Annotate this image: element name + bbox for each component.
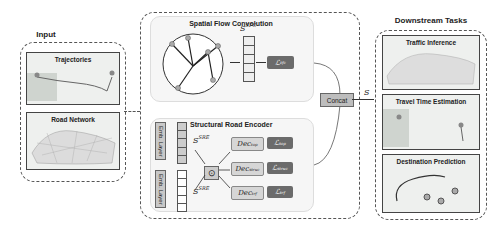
- concat-connectors: [290, 55, 370, 175]
- trajectories-card: Trajectories: [26, 52, 120, 105]
- traffic-inference-label: Traffic Inference: [383, 39, 479, 46]
- spatial-flow-title: Spatial Flow Convolution: [150, 20, 312, 27]
- emb-layer-2: Emb. Layer: [155, 170, 166, 208]
- input-arrow: [124, 111, 140, 112]
- decoder-struc: Decstruc: [231, 162, 264, 176]
- output-symbol: S: [364, 88, 369, 97]
- arrow-to-sfc-loss: [256, 62, 266, 63]
- concat-box: Concat: [320, 93, 354, 107]
- road-network-label: Road Network: [27, 116, 119, 123]
- flow-graph-icon: [158, 30, 228, 96]
- decoder-trf: Dectrf: [231, 186, 264, 200]
- trajectory-map-icon: [27, 63, 119, 103]
- destination-prediction-card: Destination Prediction: [382, 154, 480, 213]
- emb-layer-1: Emb. Layer: [155, 122, 166, 160]
- input-title: Input: [18, 30, 74, 39]
- destination-map-icon: [383, 165, 479, 209]
- travel-time-map-icon: [383, 105, 479, 147]
- traffic-inference-card: Traffic Inference: [382, 35, 480, 90]
- destination-prediction-label: Destination Prediction: [383, 158, 479, 165]
- decoder-top: Dectop: [231, 137, 264, 151]
- downstream-title: Downstream Tasks: [372, 16, 490, 25]
- traffic-map-icon: [383, 46, 479, 86]
- trajectories-label: Trajectories: [27, 56, 119, 63]
- arrows: [185, 130, 235, 200]
- road-network-card: Road Network: [26, 112, 120, 170]
- road-network-map-icon: [27, 123, 119, 167]
- travel-time-card: Travel Time Estimation: [382, 94, 480, 150]
- arrow-to-sfc: [230, 62, 240, 63]
- sfc-embedding-vector: [243, 36, 255, 82]
- travel-time-label: Travel Time Estimation: [383, 98, 479, 105]
- output-arrow: [352, 99, 374, 100]
- structural-title: Structural Road Encoder: [190, 121, 272, 128]
- sfc-embedding-label: SSFC: [240, 22, 256, 33]
- loss-trf: ℒtrf: [267, 186, 293, 198]
